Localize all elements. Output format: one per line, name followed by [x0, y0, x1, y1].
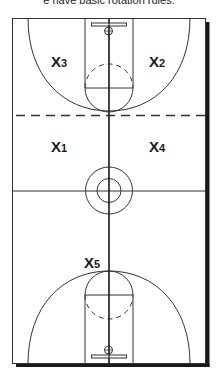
player-x1: X1: [51, 138, 67, 155]
basketball-court-diagram: X3 X2 X1 X4 X5: [0, 0, 218, 383]
player-x2: X2: [149, 53, 165, 70]
player-x3: X3: [51, 53, 67, 70]
player-x5: X5: [84, 254, 100, 271]
player-x4: X4: [149, 138, 166, 155]
court-shadow-bottom: [16, 364, 210, 368]
court-shadow-right: [206, 22, 210, 367]
